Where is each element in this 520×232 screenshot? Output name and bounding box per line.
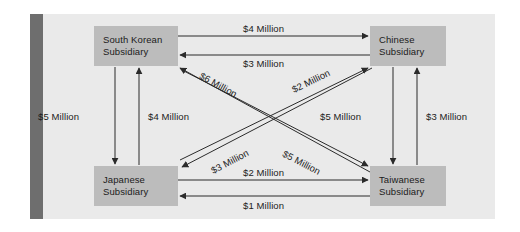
node-chinese-subsidiary[interactable]: Chinese Subsidiary bbox=[370, 26, 446, 66]
edge-label-cn-to-tw: $5 Million bbox=[320, 111, 361, 122]
edge-label-tw-to-jp: $1 Million bbox=[243, 200, 284, 211]
edge-label-kr-to-jp: $5 Million bbox=[38, 111, 79, 122]
node-jp-line2: Subsidiary bbox=[103, 186, 178, 198]
node-kr-line2: Subsidiary bbox=[103, 46, 178, 58]
node-cn-line1: Chinese bbox=[379, 34, 446, 46]
edge-label-tw-to-cn: $3 Million bbox=[426, 111, 467, 122]
node-japanese-subsidiary[interactable]: Japanese Subsidiary bbox=[94, 166, 178, 206]
diagram-canvas: South Korean Subsidiary Chinese Subsidia… bbox=[0, 0, 520, 232]
edge-label-jp-to-tw: $2 Million bbox=[243, 167, 284, 178]
node-taiwanese-subsidiary[interactable]: Taiwanese Subsidiary bbox=[370, 166, 446, 206]
edge-label-jp-to-kr: $4 Million bbox=[148, 111, 189, 122]
node-cn-line2: Subsidiary bbox=[379, 46, 446, 58]
node-tw-line1: Taiwanese bbox=[379, 174, 446, 186]
node-kr-line1: South Korean bbox=[103, 34, 178, 46]
edge-label-kr-to-cn: $4 Million bbox=[243, 23, 284, 34]
node-jp-line1: Japanese bbox=[103, 174, 178, 186]
edge-label-cn-to-kr: $3 Million bbox=[243, 58, 284, 69]
node-tw-line2: Subsidiary bbox=[379, 186, 446, 198]
node-south-korean-subsidiary[interactable]: South Korean Subsidiary bbox=[94, 26, 178, 66]
